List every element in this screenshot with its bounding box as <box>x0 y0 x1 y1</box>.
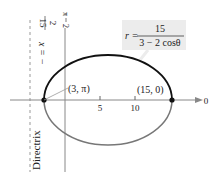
directrix-label: Directrix <box>30 130 42 170</box>
pi-over-2-num: π <box>61 12 70 16</box>
equation-leader <box>140 50 148 60</box>
equation-denominator: 3 − 2 cosθ <box>139 37 180 48</box>
vertex-point-15-0 <box>169 97 174 102</box>
tick-label-10: 10 <box>131 103 141 113</box>
point-label-15-0: (15, 0) <box>137 84 164 96</box>
equation-numerator: 15 <box>155 23 165 34</box>
polar-ellipse-diagram: r = 15 3 − 2 cosθ (3, π) (15, 0) 5 10 0 … <box>0 0 214 178</box>
tick-label-5: 5 <box>98 103 103 113</box>
directrix-eq-lhs: x = − <box>37 41 48 65</box>
point-label-3-pi: (3, π) <box>68 83 90 95</box>
directrix-eq-den: 2 <box>48 21 58 26</box>
pi-over-2-den: 2 <box>61 24 70 28</box>
zero-angle-label: 0 <box>204 96 209 106</box>
point-leader <box>44 88 68 100</box>
equation-lhs: r = <box>125 30 138 41</box>
directrix-eq-num: 15 <box>38 19 48 29</box>
ellipse-lower-arc <box>44 100 172 145</box>
arrow-right-icon <box>195 97 203 103</box>
